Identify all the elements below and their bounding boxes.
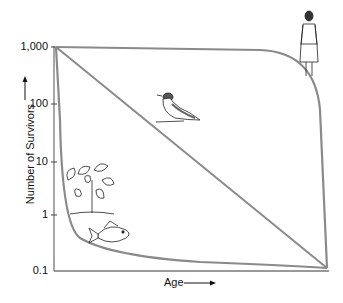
plant-icon [67,164,114,214]
y-tick-label-0-1: 0.1 [4,264,48,276]
y-axis-label-text: Number of Survivors [24,104,36,204]
survivorship-diagram [0,0,343,303]
fish-icon [89,221,129,243]
x-axis-label: Age [164,276,184,288]
y-axis-label: Number of Survivors [24,74,36,234]
x-arrow-icon [210,281,216,286]
bird-icon [156,93,200,122]
y-tick-label-1000: 1,000 [4,40,48,52]
